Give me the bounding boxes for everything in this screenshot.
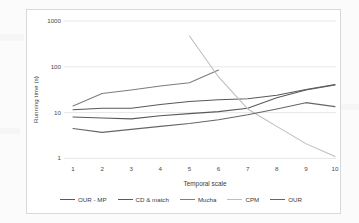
x-tick-label: 1 [63,165,83,172]
x-tick-label: 7 [238,165,258,172]
x-tick-label: 6 [209,165,229,172]
x-tick-label: 3 [121,165,141,172]
legend-item[interactable]: Mucha [180,196,217,203]
y-tick-label: 1 [35,154,61,161]
y-tick-label: 10 [35,109,61,116]
series-line-mucha [73,70,219,106]
x-tick-label: 4 [150,165,170,172]
legend-label: OUR - MP [78,196,107,203]
x-tick-label: 2 [92,165,112,172]
legend-line-swatch [180,199,195,200]
series-line-cd-match [73,85,335,119]
x-tick-label: 9 [296,165,316,172]
series-line-cpm [189,36,335,156]
x-axis-label: Temporal scale [100,180,310,187]
legend-line-swatch [227,199,242,200]
y-tick-label: 1000 [35,17,61,24]
series-lines [73,36,335,156]
legend-item[interactable]: OUR [270,196,302,203]
series-line-our [73,103,335,133]
legend-item[interactable]: CPM [227,196,259,203]
legend-line-swatch [118,199,133,200]
chart-figure: 1000100101 12345678910 Running time (s) … [0,0,359,223]
legend-item[interactable]: CD & match [118,196,169,203]
x-tick-label: 10 [325,165,345,172]
y-tick-label: 100 [35,63,61,70]
legend-line-swatch [60,199,75,200]
legend-line-swatch [270,199,285,200]
legend-label: Mucha [198,196,217,203]
chart-legend: OUR - MPCD & matchMuchaCPMOUR [46,196,316,203]
legend-item[interactable]: OUR - MP [60,196,107,203]
legend-label: CPM [245,196,259,203]
y-axis-label: Running time (s) [32,45,39,155]
x-tick-label: 5 [179,165,199,172]
legend-label: OUR [288,196,302,203]
x-tick-label: 8 [267,165,287,172]
legend-label: CD & match [136,196,169,203]
series-line-our-mp [73,85,335,110]
